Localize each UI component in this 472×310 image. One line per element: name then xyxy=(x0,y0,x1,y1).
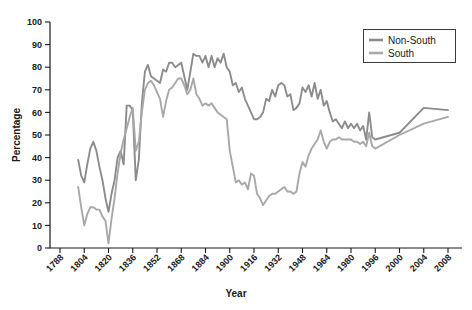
y-tick-label: 30 xyxy=(32,175,42,185)
series-group xyxy=(78,54,448,244)
x-tick-label: 2004 xyxy=(408,252,429,273)
chart-container: 0102030405060708090100 17881804182018361… xyxy=(0,0,472,310)
x-tick-label: 2000 xyxy=(384,252,405,273)
x-tick-label: 1884 xyxy=(190,252,211,273)
y-axis-ticks: 0102030405060708090100 xyxy=(27,17,50,253)
x-tick-label: 2008 xyxy=(432,252,453,273)
line-chart: 0102030405060708090100 17881804182018361… xyxy=(0,0,472,310)
x-axis-title: Year xyxy=(225,288,246,299)
x-tick-label: 1964 xyxy=(311,252,332,273)
y-tick-label: 70 xyxy=(32,85,42,95)
x-tick-label: 1820 xyxy=(93,252,114,273)
x-tick-label: 1916 xyxy=(238,252,259,273)
x-tick-label: 1932 xyxy=(262,252,283,273)
y-tick-label: 80 xyxy=(32,62,42,72)
chart-legend[interactable]: Non-South South xyxy=(364,30,456,63)
x-tick-label: 1980 xyxy=(335,252,356,273)
y-tick-label: 10 xyxy=(32,221,42,231)
y-tick-label: 50 xyxy=(32,130,42,140)
x-tick-label: 1948 xyxy=(287,252,308,273)
x-tick-label: 1868 xyxy=(165,252,186,273)
y-tick-label: 60 xyxy=(32,108,42,118)
x-tick-label: 1836 xyxy=(117,252,138,273)
y-tick-label: 40 xyxy=(32,153,42,163)
y-tick-label: 0 xyxy=(37,243,42,253)
x-tick-label: 1788 xyxy=(44,252,65,273)
y-tick-label: 90 xyxy=(32,40,42,50)
legend-label-south: South xyxy=(388,48,414,59)
y-axis-title: Percentage xyxy=(11,108,22,162)
legend-label-non-south: Non-South xyxy=(388,35,436,46)
y-tick-label: 20 xyxy=(32,198,42,208)
x-tick-label: 1996 xyxy=(359,252,380,273)
x-axis-ticks: 1788180418201836185218681884190019161932… xyxy=(44,248,453,274)
x-tick-label: 1852 xyxy=(141,252,162,273)
y-tick-label: 100 xyxy=(27,17,42,27)
x-tick-label: 1900 xyxy=(214,252,235,273)
x-tick-label: 1804 xyxy=(68,252,89,273)
series-line-south xyxy=(78,79,448,244)
